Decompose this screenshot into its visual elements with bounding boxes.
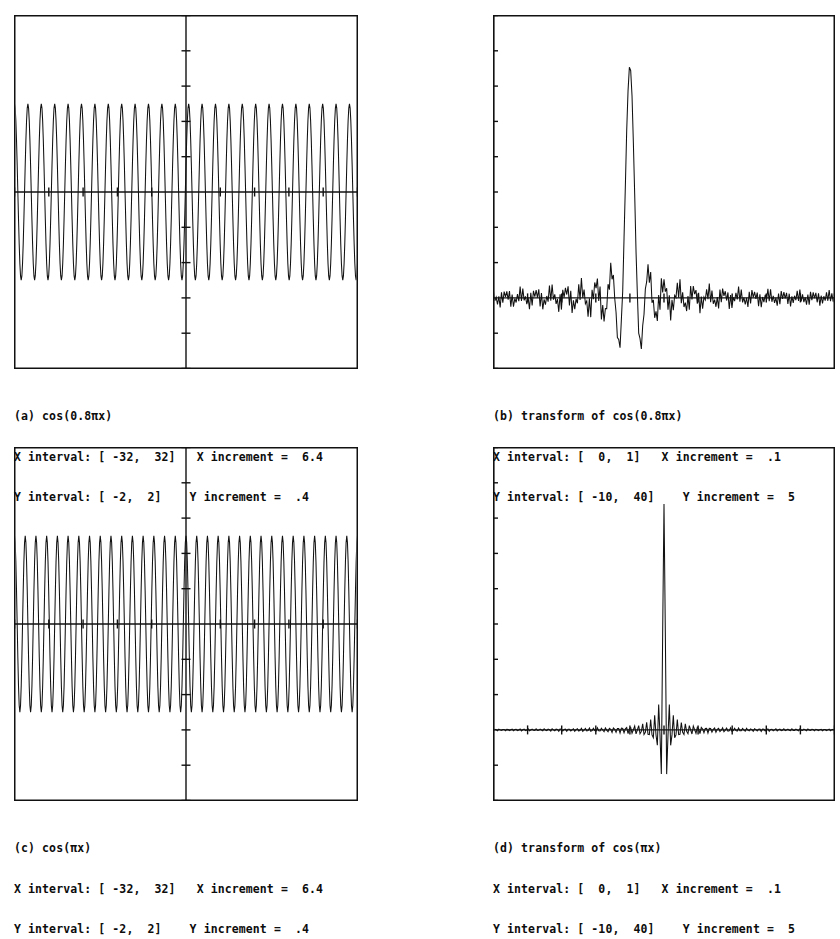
plot-border-d (494, 448, 835, 801)
caption-d-y-row: Y interval: [ -10, 40] Y increment = 5 (493, 923, 795, 937)
plot-b (493, 15, 835, 369)
plot-frame-a (14, 15, 358, 369)
caption-d-x-increment: X increment = .1 (662, 882, 781, 896)
caption-c-x-row: X interval: [ -32, 32] X increment = 6.4 (14, 883, 323, 897)
axes-d (493, 448, 835, 801)
plot-c (14, 447, 358, 801)
axes-c (15, 448, 358, 801)
caption-c-title: (c) cos(πx) (14, 842, 323, 856)
caption-d-y-increment: Y increment = 5 (683, 922, 795, 936)
caption-d-x-row: X interval: [ 0, 1] X increment = .1 (493, 883, 795, 897)
caption-d-title: (d) transform of cos(πx) (493, 842, 795, 856)
caption-c-y-interval: Y interval: [ -2, 2] (14, 922, 162, 936)
caption-b-title: (b) transform of cos(0.8πx) (493, 410, 795, 424)
plot-a (14, 15, 358, 369)
caption-c: (c) cos(πx) X interval: [ -32, 32] X inc… (14, 815, 323, 939)
caption-a-title: (a) cos(0.8πx) (14, 410, 323, 424)
caption-c-x-increment: X increment = 6.4 (197, 882, 323, 896)
plot-frame-c (14, 447, 358, 801)
plot-frame-b (493, 15, 835, 369)
caption-d: (d) transform of cos(πx) X interval: [ 0… (493, 815, 795, 939)
caption-d-y-interval: Y interval: [ -10, 40] (493, 922, 655, 936)
caption-c-x-interval: X interval: [ -32, 32] (14, 882, 176, 896)
plot-frame-d (493, 447, 835, 801)
caption-c-y-row: Y interval: [ -2, 2] Y increment = .4 (14, 923, 323, 937)
data-curve-b (494, 67, 835, 349)
axes-b (493, 16, 835, 369)
plot-d (493, 447, 835, 801)
plot-border-b (494, 16, 835, 369)
caption-c-y-increment: Y increment = .4 (190, 922, 309, 936)
caption-d-x-interval: X interval: [ 0, 1] (493, 882, 641, 896)
